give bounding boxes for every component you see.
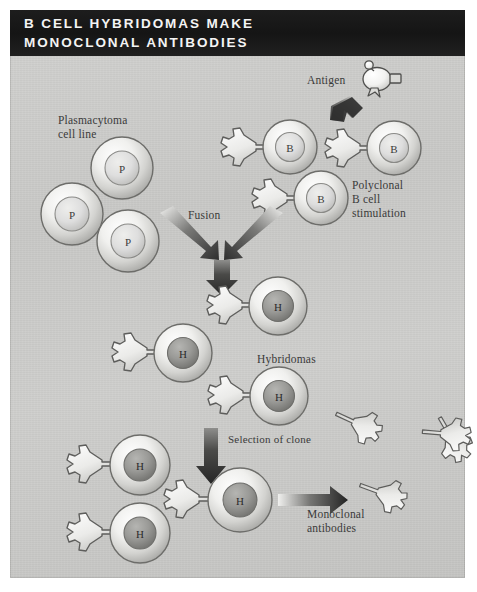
hybridoma-cell: H [67,503,170,563]
plasmacytoma-cell: P [91,137,153,199]
svg-text:H: H [136,460,144,472]
title-line-2: MONOCLONAL ANTIBODIES [24,33,254,52]
antigen-arrow-icon [330,96,363,122]
title-line-1: B CELL HYBRIDOMAS MAKE [24,14,254,33]
label-fusion: Fusion [188,208,221,222]
label-plasmacytoma: Plasmacytoma cell line [58,113,127,141]
plasmacytoma-group: P P P [41,137,159,272]
b-cell: B [221,120,317,174]
svg-text:H: H [275,391,283,403]
hybridoma-cell: H [208,367,308,425]
label-polyclonal: Polyclonal B cell stimulation [352,178,406,220]
label-selection-of-clone: Selection of clone [228,432,311,446]
svg-text:H: H [236,495,244,507]
diagram-svg: B B B P [0,0,477,592]
svg-text:B: B [317,193,324,205]
antibody-y-icon [329,399,387,449]
svg-text:H: H [136,528,144,540]
b-cell: B [325,121,421,175]
label-hybridomas: Hybridomas [257,352,316,366]
svg-text:H: H [274,301,282,313]
svg-text:B: B [390,143,397,155]
hybridoma-mid-group: H H H [112,277,308,425]
selected-clone-cell: H [164,468,272,532]
fusion-right-arrow-icon [224,206,283,260]
hybridoma-bottom-group: H H H [67,435,272,563]
title-bar: B CELL HYBRIDOMAS MAKE MONOCLONAL ANTIBO… [10,10,465,56]
figure-root: B B B P [0,0,477,592]
svg-text:B: B [286,142,293,154]
label-antigen: Antigen [307,73,345,87]
free-antibody-group [329,399,477,517]
svg-text:P: P [119,163,125,175]
svg-text:P: P [69,209,75,221]
hybridoma-cell: H [112,324,212,382]
svg-text:P: P [125,236,131,248]
label-monoclonal-antibodies: Monoclonal antibodies [307,507,365,535]
antigen-icon [363,61,401,97]
svg-text:H: H [179,348,187,360]
hybridoma-cell: H [67,435,170,495]
plasmacytoma-cell: P [41,183,103,245]
page-title: B CELL HYBRIDOMAS MAKE MONOCLONAL ANTIBO… [24,14,254,52]
plasmacytoma-cell: P [97,210,159,272]
